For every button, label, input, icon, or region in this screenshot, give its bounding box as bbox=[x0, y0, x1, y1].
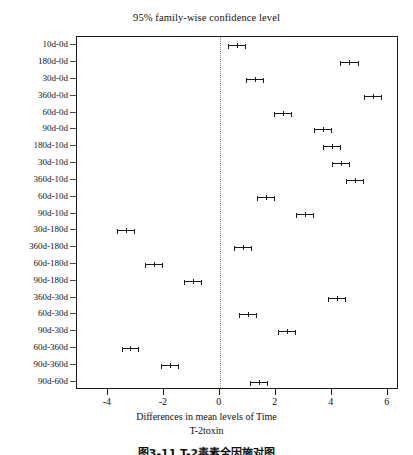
interval-lower-cap bbox=[117, 229, 118, 234]
interval-estimate-marker bbox=[130, 346, 131, 351]
y-axis-tick-label: 10d-0d bbox=[0, 39, 68, 49]
y-axis-tick-label: 90d-0d bbox=[0, 123, 68, 133]
interval-lower-cap bbox=[364, 95, 365, 100]
interval-estimate-marker bbox=[337, 296, 338, 301]
interval-lower-cap bbox=[122, 347, 123, 352]
x-axis-tick-mark bbox=[219, 389, 220, 395]
interval-lower-cap bbox=[228, 44, 229, 49]
y-axis-tick-mark bbox=[70, 330, 76, 331]
x-axis-tick-mark bbox=[275, 389, 276, 395]
y-axis-tick-label: 360d-30d bbox=[0, 292, 68, 302]
interval-upper-cap bbox=[178, 364, 179, 369]
x-axis-label-secondary: T-2toxin bbox=[0, 425, 413, 436]
interval-estimate-marker bbox=[305, 212, 306, 217]
figure-caption: 图3-11 T-2毒素全因施对图 bbox=[0, 444, 413, 455]
interval-upper-cap bbox=[134, 229, 135, 234]
interval-upper-cap bbox=[331, 128, 332, 133]
interval-lower-cap bbox=[346, 179, 347, 184]
interval-upper-cap bbox=[313, 213, 314, 218]
y-axis-tick-label: 90d-60d bbox=[0, 376, 68, 386]
interval-lower-cap bbox=[184, 280, 185, 285]
y-axis-tick-mark bbox=[70, 246, 76, 247]
interval-estimate-marker bbox=[266, 195, 267, 200]
y-axis-tick-label: 90d-180d bbox=[0, 275, 68, 285]
interval-upper-cap bbox=[251, 246, 252, 251]
interval-estimate-marker bbox=[323, 127, 324, 132]
y-axis-tick-mark bbox=[70, 364, 76, 365]
y-axis-tick-label: 60d-10d bbox=[0, 191, 68, 201]
x-axis-tick-label: -2 bbox=[159, 396, 167, 407]
x-axis-tick-label: 6 bbox=[384, 396, 389, 407]
y-axis-tick-mark bbox=[70, 313, 76, 314]
y-axis-tick-label: 60d-360d bbox=[0, 342, 68, 352]
y-axis-tick-mark bbox=[70, 381, 76, 382]
interval-lower-cap bbox=[296, 213, 297, 218]
y-axis-tick-mark bbox=[70, 95, 76, 96]
interval-upper-cap bbox=[381, 95, 382, 100]
interval-upper-cap bbox=[349, 162, 350, 167]
x-axis-tick-mark bbox=[331, 389, 332, 395]
interval-lower-cap bbox=[323, 145, 324, 150]
y-axis-tick-label: 60d-180d bbox=[0, 258, 68, 268]
y-axis-tick-label: 360d-0d bbox=[0, 90, 68, 100]
interval-upper-cap bbox=[162, 263, 163, 268]
interval-estimate-marker bbox=[259, 380, 260, 385]
interval-lower-cap bbox=[332, 162, 333, 167]
y-axis-tick-mark bbox=[70, 229, 76, 230]
interval-estimate-marker bbox=[170, 363, 171, 368]
interval-lower-cap bbox=[250, 381, 251, 386]
zero-reference-line bbox=[220, 37, 221, 388]
y-axis-tick-label: 60d-0d bbox=[0, 107, 68, 117]
y-axis-tick-label: 180d-0d bbox=[0, 56, 68, 66]
interval-estimate-marker bbox=[332, 144, 333, 149]
y-axis-tick-label: 180d-10d bbox=[0, 140, 68, 150]
y-axis-tick-mark bbox=[70, 61, 76, 62]
y-axis-tick-mark bbox=[70, 213, 76, 214]
y-axis-tick-label: 30d-180d bbox=[0, 224, 68, 234]
interval-lower-cap bbox=[234, 246, 235, 251]
y-axis-tick-mark bbox=[70, 179, 76, 180]
x-axis-tick-label: -4 bbox=[103, 396, 111, 407]
interval-estimate-marker bbox=[355, 178, 356, 183]
y-axis-tick-mark bbox=[70, 347, 76, 348]
interval-lower-cap bbox=[161, 364, 162, 369]
interval-upper-cap bbox=[345, 297, 346, 302]
interval-estimate-marker bbox=[349, 60, 350, 65]
x-axis-tick-label: 0 bbox=[216, 396, 221, 407]
y-axis-tick-mark bbox=[70, 263, 76, 264]
interval-upper-cap bbox=[201, 280, 202, 285]
chart-title: 95% family-wise confidence level bbox=[0, 12, 413, 23]
interval-estimate-marker bbox=[283, 111, 284, 116]
x-axis-tick-label: 4 bbox=[328, 396, 333, 407]
interval-lower-cap bbox=[278, 330, 279, 335]
plot-area bbox=[76, 36, 398, 389]
interval-lower-cap bbox=[239, 313, 240, 318]
interval-upper-cap bbox=[363, 179, 364, 184]
interval-upper-cap bbox=[256, 313, 257, 318]
interval-lower-cap bbox=[328, 297, 329, 302]
y-axis-tick-label: 90d-360d bbox=[0, 359, 68, 369]
interval-upper-cap bbox=[274, 196, 275, 201]
y-axis-tick-mark bbox=[70, 112, 76, 113]
y-axis-tick-label: 30d-10d bbox=[0, 157, 68, 167]
interval-upper-cap bbox=[340, 145, 341, 150]
x-axis-tick-mark bbox=[107, 389, 108, 395]
interval-estimate-marker bbox=[287, 329, 288, 334]
interval-upper-cap bbox=[267, 381, 268, 386]
interval-estimate-marker bbox=[237, 43, 238, 48]
interval-lower-cap bbox=[145, 263, 146, 268]
y-axis-tick-label: 90d-30d bbox=[0, 325, 68, 335]
y-axis-tick-mark bbox=[70, 297, 76, 298]
x-axis-label-primary: Differences in mean levels of Time bbox=[0, 411, 413, 422]
x-axis-tick-mark bbox=[163, 389, 164, 395]
interval-lower-cap bbox=[314, 128, 315, 133]
y-axis-tick-label: 90d-10d bbox=[0, 208, 68, 218]
x-axis-tick-mark bbox=[387, 389, 388, 395]
y-axis-tick-label: 30d-0d bbox=[0, 73, 68, 83]
interval-upper-cap bbox=[263, 78, 264, 83]
interval-upper-cap bbox=[245, 44, 246, 49]
interval-lower-cap bbox=[257, 196, 258, 201]
x-axis-tick-label: 2 bbox=[272, 396, 277, 407]
interval-upper-cap bbox=[138, 347, 139, 352]
interval-estimate-marker bbox=[193, 279, 194, 284]
